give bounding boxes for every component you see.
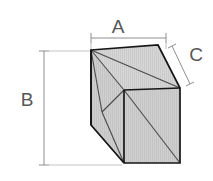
- label-c: C: [189, 44, 203, 65]
- diagram-canvas: A B C: [0, 0, 213, 181]
- cube-dimension-svg: A B C: [0, 0, 213, 181]
- label-b: B: [21, 89, 34, 110]
- label-a: A: [112, 16, 125, 37]
